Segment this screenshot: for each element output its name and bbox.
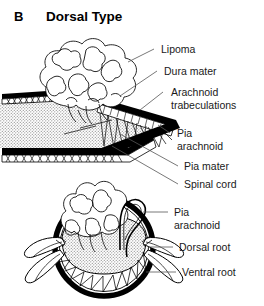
label-arachnoid-trabeculations-line2: trabeculations <box>171 99 236 111</box>
label-dura-mater: Dura mater <box>164 65 217 77</box>
panel-letter: B <box>14 9 23 24</box>
label-dorsal-root: Dorsal root <box>179 241 230 253</box>
label-lipoma: Lipoma <box>161 43 196 55</box>
label-pia-arachnoid-lower-line1: Pia <box>174 206 189 218</box>
label-pia-arachnoid-upper-line1: Pia <box>177 127 192 139</box>
label-pia-arachnoid-upper-line2: arachnoid <box>177 140 223 152</box>
label-ventral-root: Ventral root <box>182 266 236 278</box>
page-title: Dorsal Type <box>46 9 123 24</box>
label-spinal-cord: Spinal cord <box>184 178 237 190</box>
figure-panel-b-dorsal-type: B Dorsal Type <box>0 0 264 306</box>
label-pia-mater: Pia mater <box>184 160 229 172</box>
label-pia-arachnoid-lower-line2: arachnoid <box>174 219 220 231</box>
label-arachnoid-trabeculations-line1: Arachnoid <box>171 86 218 98</box>
